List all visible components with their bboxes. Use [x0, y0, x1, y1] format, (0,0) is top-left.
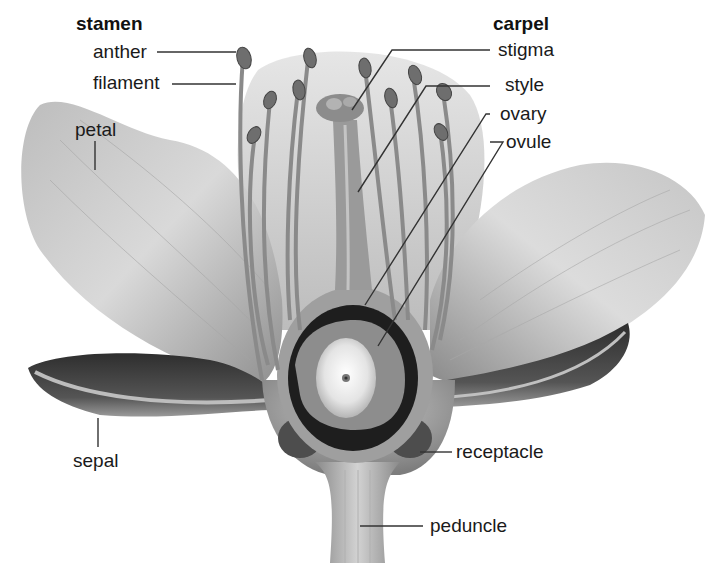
- label-style: style: [505, 75, 544, 94]
- stigma: [316, 94, 364, 122]
- label-ovule: ovule: [506, 132, 551, 151]
- label-anther: anther: [93, 42, 147, 61]
- label-filament: filament: [93, 73, 160, 92]
- label-peduncle: peduncle: [430, 516, 507, 535]
- peduncle: [315, 462, 400, 563]
- label-petal: petal: [75, 120, 116, 139]
- label-sepal: sepal: [73, 451, 118, 470]
- flower-diagram: stamen carpel anther filament stigma sty…: [0, 0, 722, 563]
- label-stigma: stigma: [498, 40, 554, 59]
- label-ovary: ovary: [500, 104, 546, 123]
- label-receptacle: receptacle: [456, 442, 544, 461]
- stamen-heading: stamen: [76, 14, 143, 33]
- carpel-heading: carpel: [493, 14, 549, 33]
